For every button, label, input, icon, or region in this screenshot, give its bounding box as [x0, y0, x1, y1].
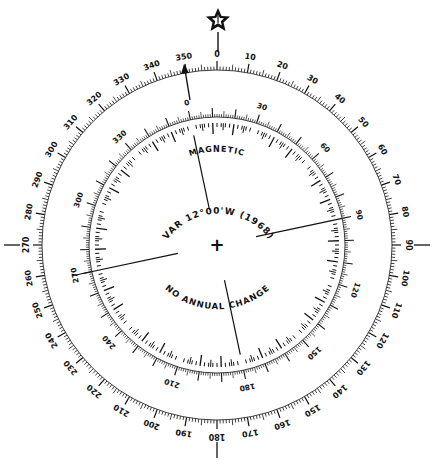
tick — [170, 123, 171, 126]
tick — [58, 324, 61, 326]
tick — [376, 319, 381, 322]
tick — [315, 311, 318, 313]
tick — [254, 120, 255, 123]
tick — [110, 318, 112, 320]
tick — [36, 213, 45, 215]
tick — [337, 289, 340, 290]
tick — [145, 340, 147, 343]
tick — [160, 343, 165, 353]
tick — [306, 337, 308, 339]
tick — [285, 406, 286, 409]
tick — [90, 211, 93, 212]
tick — [353, 355, 356, 357]
tick — [283, 144, 285, 147]
tick — [341, 213, 344, 214]
tick — [69, 343, 72, 345]
tick — [232, 419, 233, 425]
tick — [66, 338, 69, 340]
tick — [87, 203, 96, 206]
tick — [194, 116, 195, 119]
tick — [100, 377, 102, 380]
tick — [149, 343, 151, 346]
tick — [189, 69, 190, 72]
tick — [174, 121, 175, 124]
tick — [174, 72, 175, 75]
tick — [262, 414, 264, 420]
tick — [326, 289, 330, 290]
tick — [351, 357, 358, 363]
tick — [144, 405, 145, 408]
tick — [44, 305, 52, 308]
tick — [158, 359, 159, 362]
tick — [376, 169, 381, 172]
tick — [390, 272, 393, 273]
tick — [144, 82, 145, 85]
tick — [246, 370, 247, 373]
tick — [339, 205, 342, 206]
tick — [389, 275, 398, 277]
tick — [291, 81, 294, 86]
tick — [326, 172, 334, 177]
tick — [187, 127, 188, 131]
degree-label: 330 — [111, 128, 129, 145]
tick — [269, 362, 270, 365]
tick — [253, 416, 254, 419]
tick — [154, 409, 157, 417]
tick — [247, 417, 249, 426]
tick — [248, 118, 249, 121]
degree-label: 340 — [142, 58, 161, 72]
tick — [231, 359, 232, 366]
tick — [382, 187, 385, 188]
tick — [124, 336, 126, 338]
tick — [123, 154, 125, 156]
tick — [301, 146, 303, 148]
compass-rose: 0102030405060708090100110120130140150160… — [0, 0, 433, 470]
tick — [252, 119, 253, 122]
tick — [94, 289, 97, 290]
tick — [98, 112, 100, 115]
tick — [333, 299, 336, 300]
tick — [370, 158, 373, 160]
tick — [107, 315, 110, 317]
tick — [263, 364, 264, 367]
tick — [104, 287, 114, 291]
tick — [232, 65, 233, 71]
tick — [59, 161, 62, 163]
tick — [96, 261, 100, 262]
tick — [377, 316, 380, 317]
tick — [305, 324, 308, 327]
tick — [299, 157, 302, 160]
tick — [159, 76, 160, 79]
tick — [331, 303, 334, 304]
tick — [341, 117, 345, 121]
tick — [115, 326, 117, 328]
degree-label: 170 — [241, 427, 259, 439]
tick — [153, 357, 154, 360]
tick — [269, 125, 270, 128]
tick — [142, 332, 149, 341]
tick — [135, 344, 137, 346]
tick — [385, 293, 388, 294]
tick — [256, 416, 257, 419]
tick — [374, 167, 377, 169]
tick — [343, 220, 346, 221]
tick — [235, 109, 236, 118]
degree-label: 110 — [389, 301, 403, 320]
tick — [380, 181, 383, 182]
tick — [336, 293, 339, 294]
tick — [132, 157, 135, 160]
tick — [383, 190, 386, 191]
tick — [343, 267, 346, 268]
tick — [104, 309, 107, 311]
tick — [78, 355, 81, 357]
degree-label: 100 — [399, 269, 411, 287]
degree-label: 320 — [85, 90, 104, 108]
tick — [277, 72, 280, 80]
tick — [107, 192, 111, 194]
tick — [135, 143, 137, 145]
tick — [139, 152, 142, 155]
tick — [387, 202, 390, 203]
tick — [112, 101, 114, 104]
tick — [53, 169, 58, 172]
tick — [111, 304, 114, 306]
